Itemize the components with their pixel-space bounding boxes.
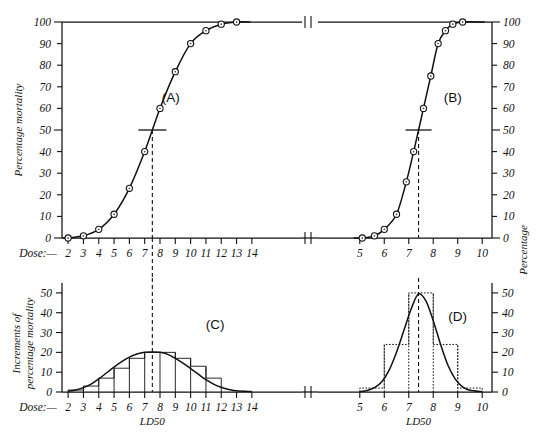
panel-a-y-tick-label: 90 [40, 38, 52, 50]
panel-a-x-tick-label: 9 [172, 247, 178, 259]
panel-d-x-tick-label: 6 [381, 401, 387, 413]
panel-c-x-tick-label: 14 [246, 401, 258, 413]
panel-c-x-tick-label: 4 [96, 401, 102, 413]
panel-d-x-tick-label: 7 [406, 401, 413, 413]
panel-c-y-tick-label: 40 [41, 307, 53, 319]
panel-a-data-point-center [67, 237, 69, 239]
panel-b-data-point-center [423, 108, 425, 110]
panel-a-x-tick-label: 14 [246, 247, 258, 259]
panel-b-x-tick-label: 5 [357, 247, 363, 259]
panel-a-data-point-center [236, 21, 238, 23]
panel-a-data-point-center [174, 71, 176, 73]
panel-a-y-tick-label: 80 [40, 59, 52, 71]
panel-a-x-tick-label: 7 [142, 247, 149, 259]
panel-c-x-tick-label: 9 [172, 401, 178, 413]
panel-d-y-tick-label: 20 [502, 346, 514, 358]
panel-b-x-tick-label: 7 [406, 247, 413, 259]
panel-a-y-tick-label: 20 [40, 189, 52, 201]
panel-c-ld50-text: LD50 [139, 415, 166, 427]
panel-b-y-tick-label: 30 [502, 167, 515, 179]
panel-a-x-tick-label: 2 [65, 247, 71, 259]
panel-d-y-tick-label: 10 [502, 366, 514, 378]
panel-d-y-tick-label: 50 [502, 287, 514, 299]
panel-c-x-tick-label: 11 [201, 401, 212, 413]
panel-b-y-tick-label: 100 [503, 16, 521, 28]
panel-c-x-tick-label: 2 [65, 401, 71, 413]
panel-c-x-tick-label: 5 [111, 401, 117, 413]
panel-a-x-tick-label: 5 [111, 247, 117, 259]
panel-d-x-tick-label: 9 [455, 401, 461, 413]
panel-b-y-tick-label: 20 [503, 189, 515, 201]
panel-b-y-tick-label: 90 [503, 38, 515, 50]
panel-b-data-point-center [361, 237, 363, 239]
panel-b-y-tick-label: 40 [503, 146, 515, 158]
panel-a-label-text: (A) [162, 90, 180, 105]
panel-b-y-tick-label: 60 [503, 102, 515, 114]
panel-c-label-text: (C) [206, 317, 225, 332]
panel-a-data-point-center [205, 30, 207, 32]
panel-b-x-tick-label: 10 [476, 247, 488, 259]
panel-c-y-tick-label: 20 [41, 346, 53, 358]
panel-b-x-tick-label: 6 [381, 247, 387, 259]
panel-b-y-tick-label: 10 [503, 210, 515, 222]
panel-a-data-point-center [128, 187, 130, 189]
panel-a-x-tick-label: 10 [185, 247, 197, 259]
panel-b-data-point-center [396, 213, 398, 215]
panel-b-data-point-center [462, 21, 464, 23]
panel-a-data-point-center [220, 23, 222, 25]
panel-b-y-tick-label: 50 [503, 124, 515, 136]
panel-d-y-tick-label: 40 [502, 307, 514, 319]
panel-b-data-point-center [383, 228, 385, 230]
panel-c-y-tick-label: 0 [46, 386, 52, 398]
panel-a-x-tick-label: 8 [157, 247, 163, 259]
panel-a-data-point-center [190, 43, 192, 45]
panel-b-data-point-center [430, 75, 432, 77]
panel-a-y-axis-title: Percentage mortality [12, 84, 24, 178]
panel-b-x-tick-label: 8 [430, 247, 436, 259]
panel-c-x-tick-label: 12 [216, 401, 228, 413]
figure-container: 0102030405060708090100Percentage mortali… [0, 0, 547, 438]
panel-c-y-axis-title-2: percentage mortality [23, 298, 35, 391]
right-axis-title-text: Percentage [517, 225, 529, 276]
panel-a-x-tick-label: 13 [231, 247, 243, 259]
panel-b-data-point-center [405, 181, 407, 183]
panel-c-y-tick-label: 10 [41, 366, 53, 378]
panel-a-y-tick-label: 60 [40, 102, 52, 114]
panel-a-y-tick-label: 10 [40, 210, 52, 222]
panel-a-x-tick-label: 12 [216, 247, 228, 259]
panel-d-ld50-text: LD50 [405, 415, 432, 427]
panel-a-data-point-center [98, 228, 100, 230]
panel-b-data-point-center [445, 30, 447, 32]
panel-d-x-tick-label: 5 [357, 401, 363, 413]
panel-a-x-tick-label: 11 [201, 247, 212, 259]
panel-c-y-tick-label: 30 [40, 327, 53, 339]
panel-c-x-tick-label: 3 [80, 401, 87, 413]
panel-b-data-point-center [374, 235, 376, 237]
panel-a-y-tick-label: 50 [40, 124, 52, 136]
dose-response-figure: 0102030405060708090100Percentage mortali… [0, 0, 547, 438]
panel-a-x-tick-label: 6 [127, 247, 133, 259]
panel-c-x-tick-label: 8 [157, 401, 163, 413]
panel-d-x-tick-label: 8 [430, 401, 436, 413]
panel-a-x-tick-label: 4 [96, 247, 102, 259]
panel-a-y-tick-label: 70 [40, 81, 52, 93]
panel-c-x-tick-label: 7 [142, 401, 149, 413]
panel-b-y-tick-label: 70 [503, 81, 515, 93]
panel-c-dose-label: Dose:— [18, 401, 57, 413]
panel-c-x-tick-label: 13 [231, 401, 243, 413]
panel-a-x-tick-label: 3 [80, 247, 87, 259]
panel-b-data-point-center [452, 23, 454, 25]
panel-c-x-tick-label: 6 [127, 401, 133, 413]
panel-a-y-tick-label: 0 [45, 232, 51, 244]
panel-c-x-tick-label: 10 [185, 401, 197, 413]
panel-b-data-point-center [413, 151, 415, 153]
panel-b-y-tick-label: 80 [503, 59, 515, 71]
panel-c-y-tick-label: 50 [41, 287, 53, 299]
panel-a-data-point-center [83, 235, 85, 237]
panel-a-dose-label: Dose:— [18, 247, 57, 259]
panel-a-y-tick-label: 40 [40, 146, 52, 158]
panel-d-x-tick-label: 10 [476, 401, 488, 413]
panel-d-y-tick-label: 0 [502, 386, 508, 398]
panel-a-data-point-center [159, 108, 161, 110]
panel-a-y-tick-label: 100 [34, 16, 52, 28]
